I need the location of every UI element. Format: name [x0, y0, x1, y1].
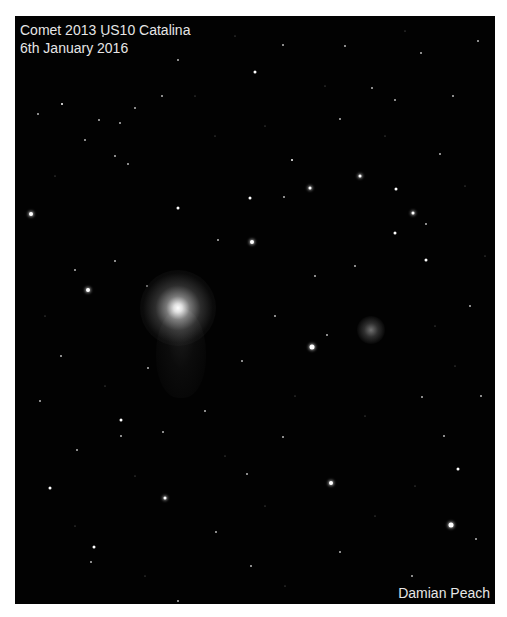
star: [254, 71, 257, 74]
star: [164, 497, 167, 500]
star: [215, 136, 216, 137]
star: [39, 400, 41, 402]
star: [394, 232, 397, 235]
star: [241, 360, 243, 362]
star: [420, 52, 422, 54]
star: [120, 419, 123, 422]
star: [250, 240, 254, 244]
star: [177, 207, 180, 210]
star: [283, 196, 285, 198]
star: [285, 586, 286, 587]
star: [354, 265, 356, 267]
star: [215, 531, 217, 533]
star: [385, 136, 386, 137]
star: [265, 506, 266, 507]
star: [310, 345, 315, 350]
star: [443, 435, 445, 437]
star: [177, 600, 179, 602]
star: [195, 96, 196, 97]
star: [76, 449, 78, 451]
star: [60, 355, 62, 357]
star: [249, 197, 252, 200]
star: [134, 107, 136, 109]
star: [225, 456, 226, 457]
astrophotograph: Comet 2013 US10 Catalina 6th January 201…: [15, 16, 495, 604]
star: [325, 86, 326, 87]
star: [291, 159, 293, 161]
star: [161, 95, 163, 97]
star: [394, 99, 396, 101]
star: [339, 551, 341, 553]
star: [344, 45, 346, 47]
star: [217, 239, 219, 241]
star: [477, 40, 479, 42]
star: [457, 468, 460, 471]
star: [449, 523, 454, 528]
star: [49, 487, 52, 490]
star: [114, 155, 116, 157]
star: [309, 187, 312, 190]
star: [93, 546, 96, 549]
star: [405, 31, 406, 32]
star: [61, 103, 63, 105]
star: [329, 481, 333, 485]
star: [74, 269, 76, 271]
star: [37, 113, 39, 115]
star: [339, 118, 341, 120]
star: [439, 153, 441, 155]
star: [425, 259, 428, 262]
star: [147, 367, 149, 369]
star: [412, 212, 415, 215]
star: [359, 175, 362, 178]
star: [127, 163, 129, 165]
star: [395, 188, 398, 191]
star: [469, 305, 471, 307]
star: [452, 95, 454, 97]
star: [282, 44, 284, 46]
star: [282, 436, 284, 438]
star: [235, 36, 236, 37]
star: [326, 334, 328, 336]
star: [365, 416, 366, 417]
star: [371, 87, 373, 89]
star: [246, 473, 248, 475]
star: [425, 223, 427, 225]
photo-credit: Damian Peach: [398, 584, 490, 602]
star: [45, 316, 46, 317]
star: [135, 476, 136, 477]
star: [90, 561, 92, 563]
star: [29, 212, 33, 216]
star: [375, 516, 376, 517]
star: [265, 126, 266, 127]
comet-nucleus: [140, 270, 216, 346]
star: [204, 410, 206, 412]
caption-title: Comet 2013 US10 Catalina: [20, 21, 190, 39]
image-caption: Comet 2013 US10 Catalina 6th January 201…: [20, 21, 190, 57]
star: [120, 435, 122, 437]
star: [145, 576, 146, 577]
star: [114, 260, 116, 262]
star: [465, 186, 466, 187]
star: [455, 366, 456, 367]
star: [435, 326, 436, 327]
star: [75, 526, 76, 527]
star: [314, 275, 316, 277]
star: [119, 122, 121, 124]
star: [421, 396, 423, 398]
cluster-glow: [357, 316, 385, 344]
star: [475, 538, 477, 540]
caption-date: 6th January 2016: [20, 39, 190, 57]
star: [411, 575, 413, 577]
star: [98, 119, 100, 121]
star: [485, 256, 486, 257]
star: [295, 396, 296, 397]
star: [250, 565, 252, 567]
star: [274, 315, 276, 317]
star: [105, 386, 106, 387]
star: [480, 395, 482, 397]
star: [415, 486, 416, 487]
star: [162, 431, 164, 433]
star: [55, 176, 56, 177]
star: [84, 139, 86, 141]
star: [86, 288, 90, 292]
